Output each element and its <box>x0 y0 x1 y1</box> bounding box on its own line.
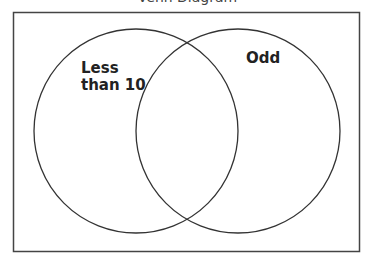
set-label-line: than 10 <box>81 77 146 94</box>
set-label-line: Odd <box>246 50 280 67</box>
universal-set-rectangle <box>14 13 360 252</box>
set-label-odd: Odd <box>246 50 280 67</box>
set-label-line: Less <box>81 60 146 77</box>
set-label-less-than-10: Less than 10 <box>81 60 146 94</box>
venn-diagram <box>0 0 375 263</box>
